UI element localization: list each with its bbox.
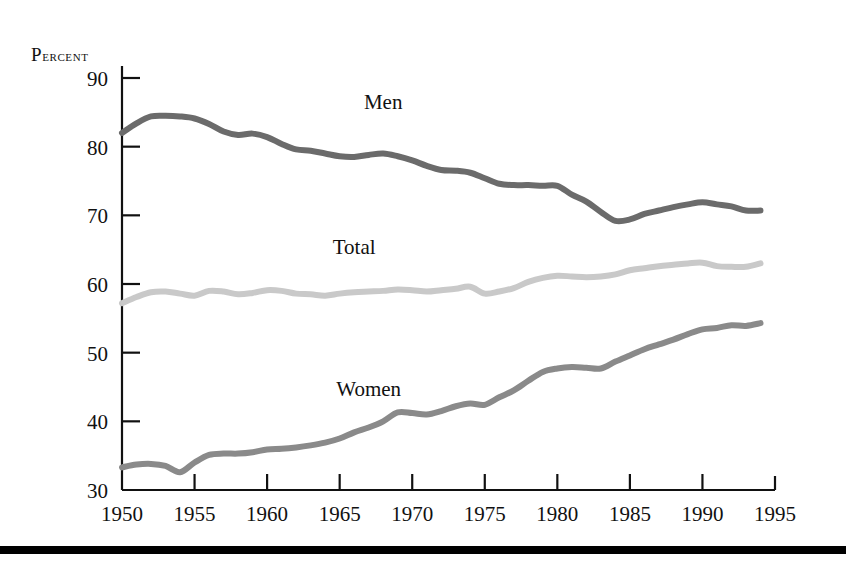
x-tick-label-1980: 1980 [536,502,578,526]
x-tick-label-1950: 1950 [101,502,143,526]
y-tick-label-70: 70 [87,204,108,228]
y-tick-label-60: 60 [87,273,108,297]
x-tick-label-1995: 1995 [754,502,796,526]
series-lines-group [122,116,760,473]
x-tick-label-1960: 1960 [246,502,288,526]
series-line-men [122,116,760,222]
plot-area: 3040506070809019501955196019651970197519… [0,0,846,564]
series-label-women: Women [336,377,401,401]
series-line-women [122,323,760,472]
x-tick-label-1990: 1990 [681,502,723,526]
series-line-total [122,263,760,304]
bottom-divider-rule [0,546,846,554]
x-tick-label-1985: 1985 [609,502,651,526]
tick-group [122,78,702,490]
y-tick-label-50: 50 [87,342,108,366]
series-label-total: Total [333,235,376,259]
x-tick-label-1955: 1955 [174,502,216,526]
x-tick-label-1970: 1970 [391,502,433,526]
y-tick-label-40: 40 [87,410,108,434]
series-label-group: MenTotalWomen [333,90,403,401]
series-label-men: Men [364,90,403,114]
y-tick-label-90: 90 [87,67,108,91]
y-tick-label-80: 80 [87,136,108,160]
y-tick-label-30: 30 [87,479,108,503]
x-tick-label-1965: 1965 [319,502,361,526]
x-tick-label-1975: 1975 [464,502,506,526]
labor-force-participation-chart: Percent 30405060708090195019551960196519… [0,0,846,564]
